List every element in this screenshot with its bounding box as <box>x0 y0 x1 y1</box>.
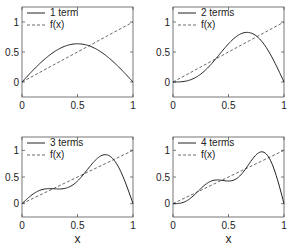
fx-line <box>22 150 133 203</box>
fx-line <box>22 22 133 82</box>
partial-sum-curve <box>173 152 284 204</box>
x-tick-label: 0.5 <box>222 220 236 231</box>
y-tick-label: 0 <box>164 77 170 88</box>
legend-label-terms: 1 term <box>50 7 78 18</box>
chart-panel-4: 000.50.5114 termsf(x)x <box>156 137 287 246</box>
legend-label-terms: 2 terms <box>201 7 234 18</box>
y-tick-label: 1 <box>13 145 19 156</box>
x-tick-label: 0 <box>19 220 25 231</box>
y-tick-label: 1 <box>13 17 19 28</box>
x-tick-label: 0 <box>19 100 25 111</box>
x-tick-label: 0 <box>170 220 176 231</box>
partial-sum-curve <box>173 32 284 82</box>
y-tick-label: 0.5 <box>5 172 19 183</box>
x-tick-label: 1 <box>281 100 287 111</box>
axes-box <box>22 7 133 97</box>
legend-label-terms: 4 terms <box>201 137 234 148</box>
x-tick-label: 0 <box>170 100 176 111</box>
x-tick-label: 0.5 <box>71 100 85 111</box>
y-tick-label: 1 <box>164 145 170 156</box>
x-tick-label: 1 <box>130 100 136 111</box>
fx-line <box>173 22 284 82</box>
y-tick-label: 0.5 <box>156 172 170 183</box>
x-tick-label: 1 <box>130 220 136 231</box>
chart-panel-3: 000.50.5113 termsf(x)x <box>5 137 136 246</box>
x-tick-label: 1 <box>281 220 287 231</box>
x-axis-label: x <box>75 232 81 246</box>
y-tick-label: 0 <box>164 198 170 209</box>
legend-label-fx: f(x) <box>50 149 64 160</box>
y-tick-label: 1 <box>164 17 170 28</box>
x-axis-label: x <box>226 232 232 246</box>
x-tick-label: 0.5 <box>222 100 236 111</box>
partial-sum-curve <box>22 155 133 204</box>
y-tick-label: 0.5 <box>156 47 170 58</box>
figure-grid: 000.50.5111 termf(x)000.50.5112 termsf(x… <box>0 0 293 247</box>
legend-label-fx: f(x) <box>201 149 215 160</box>
partial-sum-curve <box>22 44 133 82</box>
x-tick-label: 0.5 <box>71 220 85 231</box>
legend-label-fx: f(x) <box>201 19 215 30</box>
legend-label-fx: f(x) <box>50 19 64 30</box>
chart-panel-2: 000.50.5112 termsf(x) <box>156 7 287 111</box>
y-tick-label: 0 <box>13 198 19 209</box>
y-tick-label: 0.5 <box>5 47 19 58</box>
legend-label-terms: 3 terms <box>50 137 83 148</box>
axes-box <box>173 7 284 97</box>
fx-line <box>173 150 284 203</box>
chart-panel-1: 000.50.5111 termf(x) <box>5 7 136 111</box>
y-tick-label: 0 <box>13 77 19 88</box>
